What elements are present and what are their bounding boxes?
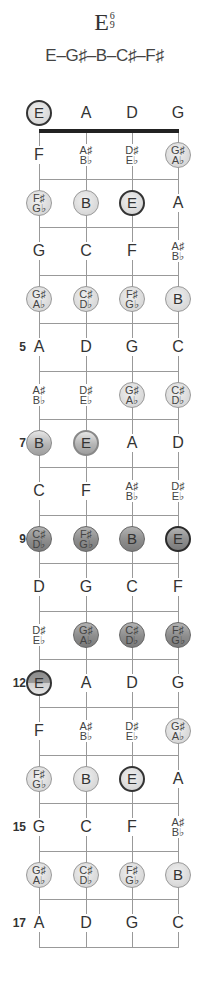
note-cell: F♯G♭ (24, 764, 54, 794)
chord-note-marker: C♯D♭ (73, 286, 99, 312)
note-cell: F (117, 236, 147, 266)
note-label: A (34, 914, 45, 932)
note-label: F♯G♭ (32, 769, 46, 789)
note-cell: D (71, 332, 101, 362)
note-cell: D♯E♭ (117, 140, 147, 170)
note-label: B (127, 531, 137, 547)
note-label: A (173, 770, 184, 788)
note-cell: A (117, 428, 147, 458)
note-cell: A♯B♭ (163, 236, 193, 266)
chord-note-marker: B (73, 190, 99, 216)
note-label: B (81, 771, 91, 787)
chord-note-marker: B (119, 526, 145, 552)
note-cell: A (24, 908, 54, 938)
note-cell: G (163, 98, 193, 128)
note-cell: B (71, 764, 101, 794)
note-cell: C (163, 908, 193, 938)
note-label: F (127, 818, 137, 836)
note-cell: D♯E♭ (24, 620, 54, 650)
note-cell: E (71, 428, 101, 458)
note-label: F (173, 578, 183, 596)
fret-line (39, 275, 179, 276)
note-label: C (33, 482, 45, 500)
note-label: A (127, 434, 138, 452)
note-label: D♯E♭ (79, 384, 92, 406)
note-label: E (173, 531, 183, 547)
note-label: D (80, 914, 92, 932)
root-note-marker: E (26, 670, 52, 696)
note-cell: C♯D♭ (24, 524, 54, 554)
note-label: B (173, 291, 183, 307)
fretboard: 579121517EADGFA♯B♭D♯E♭G♯A♭F♯G♭BEAGCFA♯B♭… (0, 0, 209, 982)
note-label: E (127, 195, 137, 211)
note-cell: C (24, 476, 54, 506)
note-label: D♯E♭ (125, 144, 138, 166)
note-cell: A♯B♭ (24, 380, 54, 410)
note-cell: A (163, 764, 193, 794)
note-cell: B (163, 284, 193, 314)
note-cell: D (71, 908, 101, 938)
note-label: C (80, 818, 92, 836)
note-label: G♯A♭ (125, 385, 139, 405)
chord-note-marker: F♯G♭ (165, 622, 191, 648)
chord-note-marker: B (26, 430, 52, 456)
note-cell: B (163, 860, 193, 890)
note-label: A (34, 338, 45, 356)
note-cell: G♯A♭ (24, 860, 54, 890)
note-label: C (80, 242, 92, 260)
note-label: C (126, 578, 138, 596)
note-cell: E (163, 524, 193, 554)
note-cell: C (71, 236, 101, 266)
note-label: B (34, 435, 44, 451)
note-label: A♯B♭ (172, 240, 185, 262)
note-label: C♯D♭ (79, 865, 92, 885)
note-cell: B (117, 524, 147, 554)
note-cell: G (24, 236, 54, 266)
note-label: F (34, 722, 44, 740)
note-cell: E (24, 668, 54, 698)
fret-line (39, 515, 179, 516)
root-note-marker: E (26, 100, 52, 126)
fret-line (39, 947, 179, 948)
note-label: B (81, 195, 91, 211)
note-cell: G (163, 668, 193, 698)
note-label: C♯D♭ (32, 529, 45, 549)
note-label: G (126, 338, 138, 356)
root-note-marker: E (119, 766, 145, 792)
chord-note-marker: F♯G♭ (26, 190, 52, 216)
fret-line (39, 227, 179, 228)
note-label: D (33, 578, 45, 596)
note-cell: A (163, 188, 193, 218)
note-cell: C♯D♭ (163, 380, 193, 410)
note-label: G (172, 674, 184, 692)
chord-note-marker: G♯A♭ (119, 382, 145, 408)
note-cell: F♯G♭ (117, 284, 147, 314)
note-cell: A (71, 98, 101, 128)
note-label: G (33, 242, 45, 260)
chord-note-marker: F♯G♭ (73, 526, 99, 552)
chord-note-marker: F♯G♭ (26, 766, 52, 792)
note-label: D♯E♭ (125, 720, 138, 742)
note-label: F (81, 482, 91, 500)
note-cell: F (71, 476, 101, 506)
note-cell: G (24, 812, 54, 842)
note-label: C (172, 338, 184, 356)
note-cell: A♯B♭ (71, 716, 101, 746)
note-cell: D♯E♭ (163, 476, 193, 506)
fret-line (39, 179, 179, 180)
note-label: A♯B♭ (33, 384, 46, 406)
note-label: C♯D♭ (171, 385, 184, 405)
chord-note-marker: G♯A♭ (165, 718, 191, 744)
chord-note-marker: C♯D♭ (119, 622, 145, 648)
note-label: G (126, 914, 138, 932)
note-label: F♯G♭ (171, 625, 185, 645)
fret-line (39, 611, 179, 612)
note-label: G (172, 104, 184, 122)
note-cell: D♯E♭ (71, 380, 101, 410)
note-cell: G (117, 332, 147, 362)
note-cell: C (117, 572, 147, 602)
root-note-marker: E (73, 430, 99, 456)
note-cell: F (163, 572, 193, 602)
root-note-marker: E (119, 190, 145, 216)
chord-note-marker: G♯A♭ (26, 862, 52, 888)
